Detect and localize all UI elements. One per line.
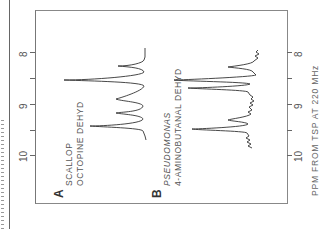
spectrum-b [174, 50, 259, 148]
spectrum-a [64, 48, 146, 140]
nmr-spectra [0, 0, 329, 229]
